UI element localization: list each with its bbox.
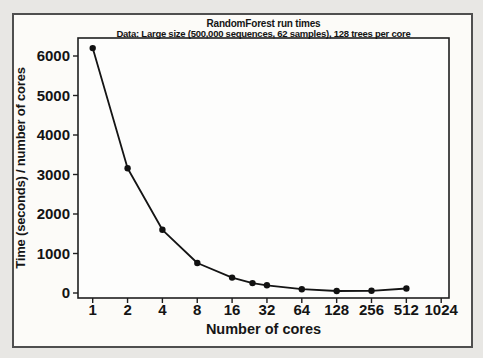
y-tick-label: 0 xyxy=(62,284,70,301)
y-tick-label: 4000 xyxy=(37,126,70,143)
chart-subtitle: Data: Large size (500,000 sequences, 62 … xyxy=(78,29,449,39)
data-point-marker xyxy=(264,282,270,288)
data-point-marker xyxy=(334,288,340,294)
x-tick-label: 512 xyxy=(394,301,419,318)
x-tick-label: 1 xyxy=(89,301,97,318)
y-tick-label: 3000 xyxy=(37,166,70,183)
data-point-marker xyxy=(299,286,305,292)
data-point-marker xyxy=(368,288,374,294)
data-point-marker xyxy=(249,280,255,286)
y-tick-label: 6000 xyxy=(37,47,70,64)
plot-area-frame xyxy=(78,38,449,298)
y-axis-title: Time (seconds) / number of cores xyxy=(13,67,28,268)
data-point-marker xyxy=(90,45,96,51)
x-tick-label: 128 xyxy=(324,301,349,318)
x-tick-label: 16 xyxy=(224,301,241,318)
line-chart: 0100020003000400050006000124816326412825… xyxy=(0,0,483,358)
y-tick-label: 5000 xyxy=(37,87,70,104)
x-tick-label: 64 xyxy=(293,301,310,318)
x-tick-label: 8 xyxy=(193,301,201,318)
x-tick-label: 256 xyxy=(359,301,384,318)
x-tick-label: 4 xyxy=(158,301,167,318)
data-point-marker xyxy=(194,260,200,266)
data-point-marker xyxy=(403,285,409,291)
x-axis-title: Number of cores xyxy=(78,321,449,337)
y-tick-label: 1000 xyxy=(37,245,70,262)
x-tick-label: 32 xyxy=(259,301,276,318)
chart-header: RandomForest run times Data: Large size … xyxy=(78,18,449,39)
x-tick-label: 2 xyxy=(123,301,131,318)
x-tick-label: 1024 xyxy=(425,301,459,318)
data-point-marker xyxy=(159,227,165,233)
data-point-marker xyxy=(229,274,235,280)
data-point-marker xyxy=(124,165,130,171)
y-tick-label: 2000 xyxy=(37,205,70,222)
